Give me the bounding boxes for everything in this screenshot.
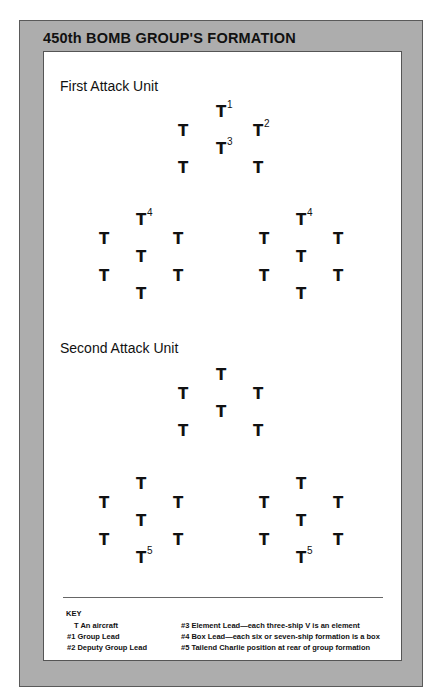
aircraft-glyph: T [333,531,343,549]
unit-2-box-1-aircraft: T [136,514,146,529]
aircraft-glyph: T [333,230,343,248]
unit-2-lead-aircraft: T [216,368,226,383]
aircraft-glyph: T [99,267,109,285]
unit-2-box-2-aircraft: T [333,496,343,511]
unit-2-box-2-aircraft: T [333,533,343,548]
unit-1-box-1-aircraft: T [173,232,183,247]
key-group-lead: #1 Group Lead [67,632,120,641]
unit-2-box-1-aircraft: T [173,496,183,511]
key-tailend-charlie: #5 Tailend Charlie position at rear of g… [181,643,370,652]
aircraft-glyph: T [296,475,306,493]
aircraft-glyph: T [259,230,269,248]
unit-1-lead-aircraft: T [253,161,263,176]
aircraft-glyph: T [216,140,226,158]
unit-2-lead-aircraft: T [216,405,226,420]
position-marker: 4 [307,208,313,218]
aircraft-glyph: T [136,549,146,567]
aircraft-glyph: T [296,549,306,567]
unit-1-box-2-aircraft: T [259,232,269,247]
unit-1-lead-aircraft: T [178,161,188,176]
aircraft-glyph: T [253,122,263,140]
unit-2-box-2-aircraft: T [296,477,306,492]
unit-2-box-2-aircraft: T [259,533,269,548]
key-heading: KEY [66,609,81,618]
aircraft-glyph: T [259,267,269,285]
unit-1-box-1-aircraft: T [136,287,146,302]
aircraft-glyph: T [333,494,343,512]
key-element-lead: #3 Element Lead—each three-ship V is an … [181,621,360,630]
key-divider [63,597,383,598]
aircraft-glyph: T [259,531,269,549]
aircraft-glyph: T [253,422,263,440]
unit-2-box-1-aircraft: T [136,477,146,492]
unit-2-lead-aircraft: T [178,387,188,402]
aircraft-glyph: T [216,366,226,384]
unit-2-box-1-aircraft: T [99,533,109,548]
aircraft-glyph: T [136,475,146,493]
unit-1-box-1-aircraft: T [136,250,146,265]
unit-1-box-2-aircraft: T [333,269,343,284]
unit-1-box-1-aircraft: T [173,269,183,284]
unit-2-box-1-aircraft: T [99,496,109,511]
position-marker: 5 [307,546,313,556]
aircraft-glyph: T [99,230,109,248]
unit-1-box-2-aircraft: T [296,287,306,302]
aircraft-glyph: T [216,403,226,421]
aircraft-glyph: T [99,531,109,549]
aircraft-glyph: T [296,285,306,303]
aircraft-glyph: T [136,211,146,229]
first-attack-unit-label: First Attack Unit [60,78,158,94]
unit-2-lead-aircraft: T [253,387,263,402]
unit-1-box-2-aircraft: T [259,269,269,284]
unit-2-lead-aircraft: T [253,424,263,439]
unit-1-box-1-aircraft: T [99,232,109,247]
aircraft-glyph: T [216,103,226,121]
unit-2-box-2-aircraft: T [259,496,269,511]
unit-2-box-1-aircraft: T5 [136,551,146,566]
position-marker: 3 [227,137,233,147]
aircraft-glyph: T [173,267,183,285]
aircraft-glyph: T [173,531,183,549]
aircraft-glyph: T [99,494,109,512]
aircraft-glyph: T [333,267,343,285]
second-attack-unit-label: Second Attack Unit [60,340,178,356]
position-marker: 5 [147,546,153,556]
diagram-title: 450th BOMB GROUP'S FORMATION [43,30,296,46]
aircraft-glyph: T [296,248,306,266]
aircraft-glyph: T [178,385,188,403]
aircraft-glyph: T [136,248,146,266]
unit-1-box-1-aircraft: T4 [136,213,146,228]
unit-1-lead-aircraft: T2 [253,124,263,139]
unit-2-box-2-aircraft: T [296,514,306,529]
aircraft-glyph: T [253,385,263,403]
aircraft-glyph: T [136,512,146,530]
key-box-lead: #4 Box Lead—each six or seven-ship forma… [181,632,380,641]
aircraft-glyph: T [178,122,188,140]
unit-2-box-1-aircraft: T [173,533,183,548]
unit-2-box-2-aircraft: T5 [296,551,306,566]
unit-1-lead-aircraft: T [178,124,188,139]
aircraft-glyph: T [259,494,269,512]
aircraft-glyph: T [178,159,188,177]
aircraft-glyph: T [136,285,146,303]
position-marker: 2 [264,119,270,129]
unit-1-box-2-aircraft: T4 [296,213,306,228]
aircraft-glyph: T [296,211,306,229]
unit-1-box-1-aircraft: T [99,269,109,284]
key-deputy-group-lead: #2 Deputy Group Lead [67,643,147,652]
unit-1-box-2-aircraft: T [333,232,343,247]
aircraft-glyph: T [253,159,263,177]
aircraft-glyph: T [178,422,188,440]
key-aircraft: T An aircraft [74,621,118,630]
unit-1-box-2-aircraft: T [296,250,306,265]
aircraft-glyph: T [296,512,306,530]
unit-2-lead-aircraft: T [178,424,188,439]
aircraft-glyph: T [173,230,183,248]
unit-1-lead-aircraft: T3 [216,142,226,157]
position-marker: 1 [227,100,233,110]
aircraft-glyph: T [173,494,183,512]
unit-1-lead-aircraft: T1 [216,105,226,120]
position-marker: 4 [147,208,153,218]
